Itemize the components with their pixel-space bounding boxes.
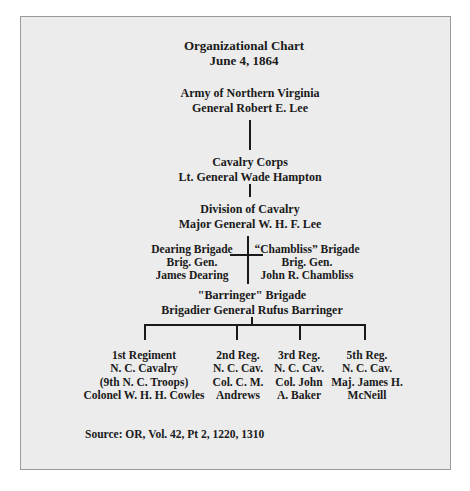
regiment-3-line-2: N. C. Cav. [274, 362, 324, 375]
node-barringer-commander: Brigadier General Rufus Barringer [161, 303, 342, 318]
regiment-1-line-2: N. C. Cavalry [83, 362, 204, 375]
node-corps: Cavalry Corps Lt. General Wade Hampton [178, 155, 321, 184]
node-division-commander: Major General W. H. F. Lee [179, 217, 322, 232]
connector-regiments-bar [144, 324, 366, 326]
regiment-5-line-3: Maj. James H. [331, 376, 403, 389]
regiment-3-line-3: Col. John [274, 376, 324, 389]
regiment-2-line-1: 2nd Reg. [213, 349, 264, 362]
node-chambliss-brigade: “Chambliss” Brigade Brig. Gen. John R. C… [254, 243, 359, 281]
node-dearing-rank: Brig. Gen. [151, 256, 232, 269]
regiment-2-line-4: Andrews [213, 389, 264, 402]
regiment-1-line-1: 1st Regiment [83, 349, 204, 362]
regiment-1-line-4: Colonel W. H. H. Cowles [83, 389, 204, 402]
source-citation: Source: OR, Vol. 42, Pt 2, 1220, 1310 [85, 428, 264, 440]
connector-regiment-3 [299, 324, 301, 340]
node-regiment-1: 1st Regiment N. C. Cavalry (9th N. C. Tr… [83, 349, 204, 403]
connector-regiment-5 [364, 324, 366, 340]
node-army-commander: General Robert E. Lee [181, 101, 320, 116]
node-dearing-brigade: Dearing Brigade Brig. Gen. James Dearing [151, 243, 232, 281]
chart-date: June 4, 1864 [184, 53, 304, 68]
node-division: Division of Cavalry Major General W. H. … [179, 202, 322, 231]
regiment-1-line-3: (9th N. C. Troops) [83, 376, 204, 389]
regiment-3-line-4: A. Baker [274, 389, 324, 402]
regiment-5-line-4: McNeill [331, 389, 403, 402]
regiment-5-line-2: N. C. Cav. [331, 362, 403, 375]
regiment-3-line-1: 3rd Reg. [274, 349, 324, 362]
node-corps-commander: Lt. General Wade Hampton [178, 170, 321, 185]
node-corps-unit: Cavalry Corps [178, 155, 321, 170]
chart-title: Organizational Chart June 4, 1864 [184, 38, 304, 68]
node-regiment-3: 3rd Reg. N. C. Cav. Col. John A. Baker [274, 349, 324, 403]
node-dearing-unit: Dearing Brigade [151, 243, 232, 256]
node-dearing-commander: James Dearing [151, 269, 232, 282]
node-army-unit: Army of Northern Virginia [181, 86, 320, 101]
node-barringer-brigade: "Barringer" Brigade Brigadier General Ru… [161, 288, 342, 317]
node-chambliss-commander: John R. Chambliss [254, 269, 359, 282]
node-regiment-5: 5th Reg. N. C. Cav. Maj. James H. McNeil… [331, 349, 403, 403]
connector-regiment-1 [144, 324, 146, 340]
node-army: Army of Northern Virginia General Robert… [181, 86, 320, 115]
node-barringer-unit: "Barringer" Brigade [161, 288, 342, 303]
connector-corps-division [249, 184, 251, 197]
node-division-unit: Division of Cavalry [179, 202, 322, 217]
connector-division-barringer [247, 236, 249, 284]
node-regiment-2: 2nd Reg. N. C. Cav. Col. C. M. Andrews [213, 349, 264, 403]
regiment-5-line-1: 5th Reg. [331, 349, 403, 362]
connector-army-corps [249, 120, 251, 150]
chart-title-text: Organizational Chart [184, 38, 304, 53]
regiment-2-line-3: Col. C. M. [213, 376, 264, 389]
node-chambliss-rank: Brig. Gen. [254, 256, 359, 269]
regiment-2-line-2: N. C. Cav. [213, 362, 264, 375]
node-chambliss-unit: “Chambliss” Brigade [254, 243, 359, 256]
connector-regiment-2 [236, 324, 238, 340]
